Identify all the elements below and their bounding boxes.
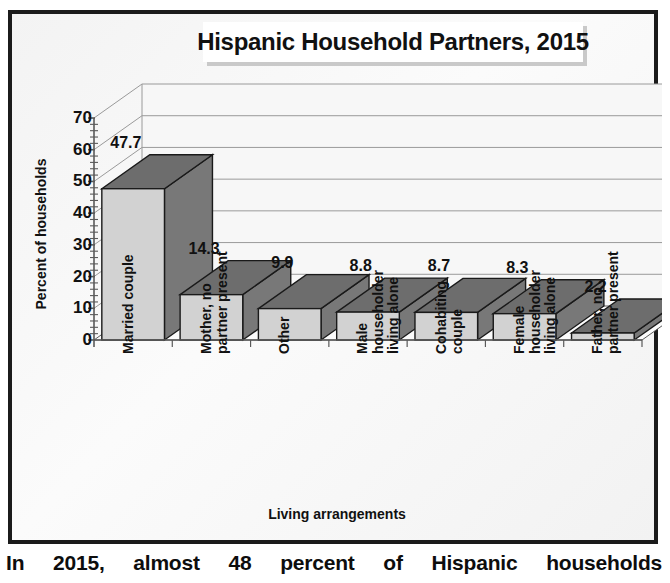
y-axis-tick-label: 20 [52,268,92,285]
x-axis-category-label: Mother, nopartner present [199,251,230,354]
chart-frame: Hispanic Household Partners, 2015 706050… [8,10,658,544]
y-axis-tick-label: 30 [52,236,92,253]
y-axis-title: Percent of households [33,144,49,324]
category-label-line: Married couple [121,254,137,354]
category-label-line: householder [528,270,544,354]
category-label-line: Father, no [590,251,606,354]
bar-value-label: 8.7 [409,257,469,275]
x-axis-category-label: Other [277,317,293,354]
category-label-line: partner present [215,251,231,354]
category-label-line: Female [512,270,528,354]
y-axis-tick-label: 10 [52,299,92,316]
x-axis-category-label: Cohabitingcouple [434,281,465,354]
x-axis-category-label: Malehouseholderliving alone [355,270,402,354]
y-axis-tick-label: 70 [52,109,92,126]
category-label-line: Male [355,270,371,354]
figure-caption: In 2015, almost 48 percent of Hispanic h… [6,551,662,583]
x-axis-category-label: Father, nopartner present [590,251,621,354]
x-axis-title: Living arrangements [12,506,662,522]
chart-title-box: Hispanic Household Partners, 2015 [203,22,583,62]
plot-area [12,14,662,548]
y-axis-tick-label: 40 [52,204,92,221]
y-axis-tick-label: 50 [52,172,92,189]
category-label-line: Other [277,317,293,354]
category-label-line: living alone [387,270,403,354]
bar-column [258,275,369,340]
category-label-line: couple [449,281,465,354]
bar-column [415,278,526,340]
bar-value-label: 9.9 [252,254,312,272]
chart-title: Hispanic Household Partners, 2015 [197,28,589,56]
bar-column [180,261,291,340]
x-axis-category-label: Femalehouseholderliving alone [512,270,559,354]
y-axis-tick-label: 60 [52,141,92,158]
category-label-line: Cohabiting [434,281,450,354]
category-label-line: partner present [606,251,622,354]
bar-value-label: 47.7 [96,134,156,152]
category-label-line: living alone [543,270,559,354]
y-axis-tick-label: 0 [52,331,92,348]
x-axis-category-label: Married couple [121,254,137,354]
category-label-line: Mother, no [199,251,215,354]
